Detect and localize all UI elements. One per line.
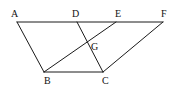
segment-BE — [44, 22, 116, 72]
label-b: B — [44, 75, 51, 86]
label-e: E — [115, 8, 121, 19]
label-d: D — [72, 8, 79, 19]
segment-DC — [77, 22, 103, 72]
label-a: A — [11, 8, 19, 19]
segment-AB — [17, 22, 44, 72]
label-c: C — [102, 75, 109, 86]
geometry-diagram: A D E F G B C — [0, 0, 176, 92]
label-g: G — [91, 41, 98, 52]
label-f: F — [161, 8, 167, 19]
segment-CF — [103, 22, 163, 72]
